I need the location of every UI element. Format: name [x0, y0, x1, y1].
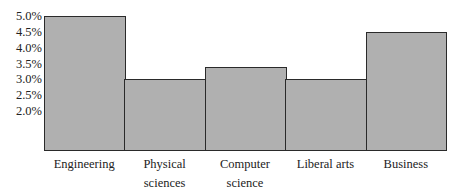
y-axis-tick-label: 4.5% [16, 26, 42, 38]
bar-business [366, 32, 448, 151]
category-label-line: sciences [124, 174, 204, 193]
category-label-line: Liberal arts [285, 155, 365, 174]
x-axis-category-label: Physicalsciences [124, 155, 204, 193]
y-axis-tick-label: 5.0% [16, 10, 42, 22]
bar-engineering [44, 16, 126, 151]
x-axis-category-label: Business [366, 155, 446, 174]
category-label-line: science [205, 174, 285, 193]
y-axis-tick-label: 2.0% [16, 105, 42, 117]
bar-physical-sciences [124, 79, 206, 151]
bar-liberal-arts [285, 79, 367, 151]
y-axis-tick-label: 4.0% [16, 42, 42, 54]
x-axis-category-label: Computerscience [205, 155, 285, 193]
x-axis-category-label: Engineering [44, 155, 124, 174]
x-axis-category-label: Liberal arts [285, 155, 365, 174]
category-label-line: Computer [205, 155, 285, 174]
bar-computer-science [205, 67, 287, 151]
y-axis-tick-label: 3.0% [16, 73, 42, 85]
y-axis-tick-label: 3.5% [16, 58, 42, 70]
y-axis-tick-label: 2.5% [16, 89, 42, 101]
category-label-line: Physical [124, 155, 204, 174]
category-label-line: Engineering [44, 155, 124, 174]
category-label-line: Business [366, 155, 446, 174]
